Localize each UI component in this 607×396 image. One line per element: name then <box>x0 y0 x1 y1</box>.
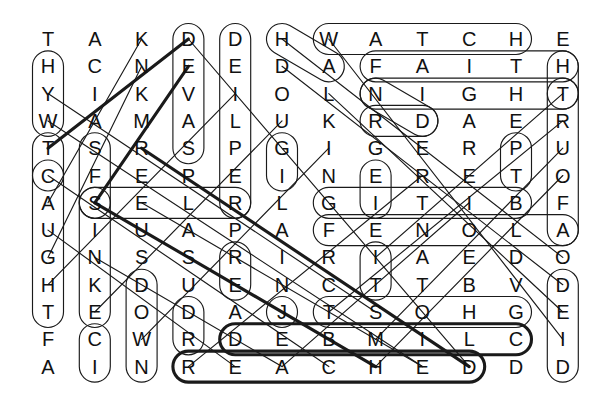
grid-letter[interactable]: A <box>80 25 110 53</box>
grid-letter[interactable]: I <box>361 189 391 217</box>
grid-letter[interactable]: A <box>267 353 297 381</box>
grid-letter[interactable]: S <box>127 243 157 271</box>
grid-letter[interactable]: R <box>314 243 344 271</box>
grid-letter[interactable]: U <box>173 271 203 299</box>
grid-letter[interactable]: C <box>454 25 484 53</box>
grid-letter[interactable]: G <box>33 243 63 271</box>
grid-letter[interactable]: G <box>454 80 484 108</box>
grid-letter[interactable]: N <box>127 353 157 381</box>
grid-letter[interactable]: B <box>501 189 531 217</box>
grid-letter[interactable]: D <box>173 25 203 53</box>
grid-letter[interactable]: E <box>501 107 531 135</box>
grid-letter[interactable]: H <box>361 353 391 381</box>
grid-letter[interactable]: R <box>407 162 437 190</box>
grid-letter[interactable]: C <box>314 271 344 299</box>
grid-letter[interactable]: S <box>80 189 110 217</box>
grid-letter[interactable]: I <box>407 80 437 108</box>
grid-letter[interactable]: K <box>127 25 157 53</box>
grid-letter[interactable]: N <box>407 216 437 244</box>
grid-letter[interactable]: P <box>220 134 250 162</box>
grid-letter[interactable]: D <box>173 298 203 326</box>
grid-letter[interactable]: E <box>220 162 250 190</box>
grid-letter[interactable]: D <box>501 243 531 271</box>
grid-letter[interactable]: R <box>127 134 157 162</box>
grid-letter[interactable]: R <box>173 325 203 353</box>
grid-letter[interactable]: A <box>407 52 437 80</box>
grid-letter[interactable]: P <box>173 162 203 190</box>
grid-letter[interactable]: U <box>267 107 297 135</box>
grid-letter[interactable]: E <box>407 134 437 162</box>
grid-letter[interactable]: I <box>267 162 297 190</box>
grid-letter[interactable]: B <box>314 325 344 353</box>
grid-letter[interactable]: E <box>361 162 391 190</box>
grid-letter[interactable]: E <box>127 162 157 190</box>
grid-letter[interactable]: F <box>314 216 344 244</box>
grid-letter[interactable]: A <box>361 25 391 53</box>
grid-letter[interactable]: U <box>548 134 578 162</box>
grid-letter[interactable]: H <box>548 52 578 80</box>
grid-letter[interactable]: S <box>80 134 110 162</box>
grid-letter[interactable]: E <box>454 243 484 271</box>
grid-letter[interactable]: D <box>454 353 484 381</box>
grid-letter[interactable]: H <box>33 271 63 299</box>
grid-letter[interactable]: G <box>314 189 344 217</box>
grid-letter[interactable]: O <box>407 298 437 326</box>
grid-letter[interactable]: A <box>173 107 203 135</box>
grid-letter[interactable]: G <box>361 134 391 162</box>
grid-letter[interactable]: O <box>454 216 484 244</box>
grid-letter[interactable]: E <box>127 189 157 217</box>
grid-letter[interactable]: I <box>80 216 110 244</box>
grid-letter[interactable]: I <box>314 134 344 162</box>
grid-letter[interactable]: C <box>501 325 531 353</box>
grid-letter[interactable]: N <box>267 271 297 299</box>
grid-letter[interactable]: V <box>501 271 531 299</box>
grid-letter[interactable]: H <box>454 298 484 326</box>
grid-letter[interactable]: I <box>220 80 250 108</box>
grid-letter[interactable]: D <box>220 25 250 53</box>
grid-letter[interactable]: E <box>407 353 437 381</box>
grid-letter[interactable]: N <box>80 243 110 271</box>
grid-letter[interactable]: C <box>33 162 63 190</box>
grid-letter[interactable]: I <box>454 189 484 217</box>
grid-letter[interactable]: R <box>220 243 250 271</box>
grid-letter[interactable]: K <box>127 80 157 108</box>
grid-letter[interactable]: D <box>407 107 437 135</box>
grid-letter[interactable]: A <box>80 107 110 135</box>
grid-letter[interactable]: E <box>548 25 578 53</box>
grid-letter[interactable]: N <box>127 52 157 80</box>
grid-letter[interactable]: C <box>80 52 110 80</box>
grid-letter[interactable]: I <box>80 80 110 108</box>
grid-letter[interactable]: M <box>127 107 157 135</box>
grid-letter[interactable]: W <box>127 325 157 353</box>
grid-letter[interactable]: T <box>33 25 63 53</box>
grid-letter[interactable]: C <box>80 325 110 353</box>
grid-letter[interactable]: T <box>314 298 344 326</box>
grid-letter[interactable]: D <box>267 52 297 80</box>
grid-letter[interactable]: O <box>267 80 297 108</box>
grid-letter[interactable]: L <box>220 107 250 135</box>
grid-letter[interactable]: L <box>314 80 344 108</box>
grid-letter[interactable]: T <box>407 25 437 53</box>
grid-letter[interactable]: P <box>220 216 250 244</box>
grid-letter[interactable]: N <box>314 162 344 190</box>
grid-letter[interactable]: U <box>127 216 157 244</box>
grid-letter[interactable]: G <box>267 134 297 162</box>
grid-letter[interactable]: S <box>173 134 203 162</box>
grid-letter[interactable]: F <box>80 162 110 190</box>
grid-letter[interactable]: Y <box>33 80 63 108</box>
grid-letter[interactable]: A <box>33 189 63 217</box>
grid-letter[interactable]: F <box>33 325 63 353</box>
grid-letter[interactable]: B <box>454 271 484 299</box>
grid-letter[interactable]: A <box>407 243 437 271</box>
grid-letter[interactable]: P <box>501 134 531 162</box>
grid-letter[interactable]: J <box>267 298 297 326</box>
grid-letter[interactable]: D <box>501 353 531 381</box>
grid-letter[interactable]: V <box>173 80 203 108</box>
grid-letter[interactable]: I <box>548 325 578 353</box>
grid-letter[interactable]: E <box>80 298 110 326</box>
grid-letter[interactable]: D <box>548 271 578 299</box>
grid-letter[interactable]: W <box>33 107 63 135</box>
grid-letter[interactable]: E <box>267 325 297 353</box>
grid-letter[interactable]: A <box>267 216 297 244</box>
grid-letter[interactable]: F <box>361 52 391 80</box>
